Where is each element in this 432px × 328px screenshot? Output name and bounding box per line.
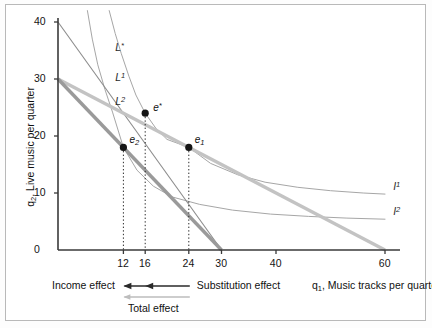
budget-line-L2 [58,79,222,250]
x-tick-label-40: 40 [270,258,282,269]
indifference-curve-I1 [109,11,385,195]
equilibrium-label-e*: e* [153,102,161,113]
y-tick-label-20: 20 [34,130,46,141]
substitution-effect-label: Substitution effect [197,280,280,291]
budget-line-label-L1: L1 [115,72,125,83]
equilibrium-point-e1[interactable] [185,144,192,151]
y-tick-label-30: 30 [34,73,46,84]
total-effect-arrowhead [123,294,130,300]
x-axis-title: q1, Music tracks per quarter [312,280,432,292]
indifference-curve-I2 [87,11,385,220]
x-tick-label-24: 24 [183,258,195,269]
y-axis-title-main: q [24,201,36,207]
equilibrium-label-e1: e1 [195,135,205,147]
x-tick-label-60: 60 [379,258,391,269]
substitution-effect-arrowhead-mid [145,283,153,289]
substitution-effect-arrowhead-left [123,283,131,289]
y-tick-label-0: 0 [34,244,40,255]
x-tick-label-30: 30 [215,258,227,269]
equilibrium-point-e2[interactable] [120,144,127,151]
equilibrium-point-e*[interactable] [142,110,149,117]
x-tick-label-12: 12 [117,258,129,269]
income-effect-label: Income effect [52,280,115,291]
y-tick-label-10: 10 [34,187,46,198]
budget-line-label-L2: L2 [115,96,125,107]
budget-line-L1 [58,79,385,250]
y-axis-title-rest: , Live music per quarter [24,87,36,197]
equilibrium-label-e2: e2 [129,135,139,147]
y-tick-label-40: 40 [34,16,46,27]
budget-line-label-L*: L* [115,42,124,53]
x-tick-label-16: 16 [139,258,151,269]
indifference-curve-label-I2: I2 [393,206,400,217]
total-effect-label: Total effect [128,303,179,314]
y-axis-title: q2, Live music per quarter [8,20,28,240]
figure-container: q2, Live music per quarter I1I2L*L1L2010… [0,0,432,328]
indifference-curve-label-I1: I1 [393,181,400,192]
